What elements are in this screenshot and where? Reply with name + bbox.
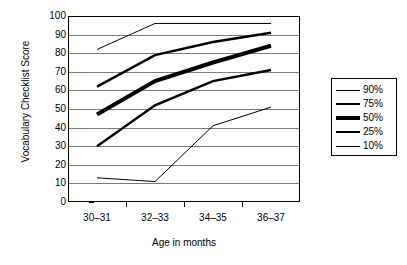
y-tick-label: 0 xyxy=(60,197,66,207)
x-tick-label: 36–37 xyxy=(241,212,301,223)
y-tick-label: 60 xyxy=(55,85,66,95)
y-tick-label: 10 xyxy=(55,178,66,188)
x-tick-label: 30–31 xyxy=(67,212,127,223)
series-line-10pct xyxy=(97,107,271,181)
y-tick-label: 70 xyxy=(55,67,66,77)
y-tick-label: 40 xyxy=(55,123,66,133)
series-line-75pct xyxy=(97,33,271,87)
y-tick-label: 100 xyxy=(49,11,66,21)
x-tick-mark xyxy=(126,202,127,207)
legend-item-25pct[interactable]: 25% xyxy=(332,125,396,139)
x-tick-label: 34–35 xyxy=(183,212,243,223)
series-line-25pct xyxy=(97,70,271,146)
y-tick-label: 30 xyxy=(55,141,66,151)
legend-item-75pct[interactable]: 75% xyxy=(332,97,396,111)
legend-line-swatch xyxy=(336,83,360,97)
y-tick-label: 90 xyxy=(55,30,66,40)
x-tick-mark xyxy=(242,202,243,207)
legend-line-swatch xyxy=(336,125,360,139)
legend-line-swatch xyxy=(336,97,360,111)
x-axis-title: Age in months xyxy=(114,237,254,248)
legend-item-label: 75% xyxy=(363,99,383,109)
y-tick-label: 80 xyxy=(55,48,66,58)
y-axis-labels: 0102030405060708090100 xyxy=(26,0,66,265)
x-tick-label: 32–33 xyxy=(125,212,185,223)
vocabulary-checklist-chart: Vocabulary Checklist Score 0102030405060… xyxy=(0,0,407,265)
legend-item-50pct[interactable]: 50% xyxy=(332,111,396,125)
legend-item-label: 25% xyxy=(363,127,383,137)
y-tick-mark xyxy=(89,202,94,203)
legend-item-10pct[interactable]: 10% xyxy=(332,139,396,153)
y-tick-label: 50 xyxy=(55,104,66,114)
series-layer xyxy=(68,16,300,202)
legend-item-label: 90% xyxy=(363,85,383,95)
x-tick-mark xyxy=(184,202,185,207)
y-tick-label: 20 xyxy=(55,160,66,170)
legend-line-swatch xyxy=(336,139,360,153)
legend-item-90pct[interactable]: 90% xyxy=(332,83,396,97)
legend-item-label: 50% xyxy=(363,113,383,123)
legend-line-swatch xyxy=(336,111,360,125)
legend-item-label: 10% xyxy=(363,141,383,151)
series-line-50pct xyxy=(97,46,271,115)
legend: 90%75%50%25%10% xyxy=(331,78,397,156)
